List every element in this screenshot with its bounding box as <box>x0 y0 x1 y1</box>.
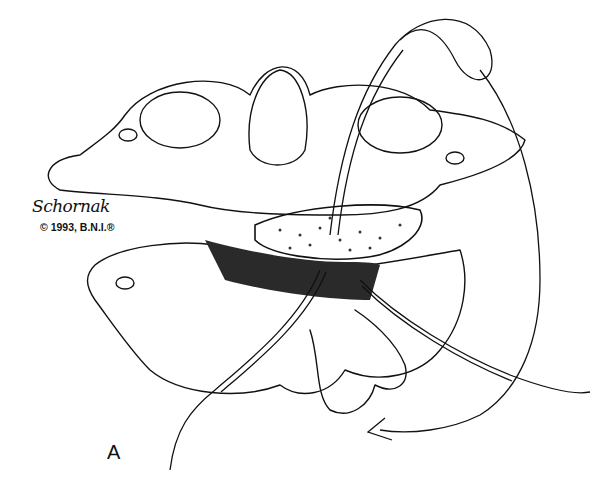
wire-loop <box>330 19 492 235</box>
vertebrae-drawing <box>0 0 600 492</box>
copyright-notice: © 1993, B.N.I.® <box>40 221 114 233</box>
upper-vertebra <box>48 67 525 215</box>
odontoid <box>249 70 307 165</box>
artist-signature: Schornak <box>32 196 110 216</box>
spinous-process <box>310 310 406 413</box>
interspace-shadow <box>205 240 380 300</box>
panel-label: A <box>107 441 120 464</box>
medical-illustration: Schornak © 1993, B.N.I.® A <box>0 0 600 492</box>
left-facet <box>140 92 220 148</box>
wire-left <box>170 270 320 470</box>
arrow-head <box>368 418 392 440</box>
